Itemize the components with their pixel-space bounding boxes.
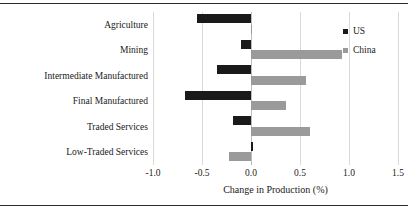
bar-china — [251, 76, 306, 85]
bar-us — [197, 14, 251, 23]
bar-group — [153, 63, 398, 89]
legend-item[interactable]: US — [343, 26, 405, 36]
bar-us — [233, 116, 251, 125]
bar-us — [251, 142, 253, 151]
x-tick-label: 1.5 — [392, 168, 404, 178]
bar-china — [251, 101, 286, 110]
x-axis-title: Change in Production (%) — [153, 184, 398, 195]
square-swatch — [343, 29, 348, 34]
legend-item[interactable]: China — [343, 45, 405, 55]
legend: USChina — [343, 26, 405, 64]
legend-label: China — [353, 45, 376, 55]
bar-us — [185, 91, 251, 100]
category-label: Low-Traded Services — [0, 147, 148, 157]
bar-us — [241, 40, 251, 49]
category-label: Traded Services — [0, 122, 148, 132]
bar-china — [251, 127, 310, 136]
legend-label: US — [353, 26, 365, 36]
square-swatch — [343, 48, 348, 53]
bar-group — [153, 89, 398, 115]
bar-group — [153, 140, 398, 166]
bar-group — [153, 114, 398, 140]
top-rule — [0, 3, 408, 4]
x-axis-tick-labels: -1.0-0.50.00.51.01.5 — [153, 168, 398, 182]
x-tick-label: 1.0 — [343, 168, 355, 178]
category-label: Agriculture — [0, 20, 148, 30]
chart-area: AgricultureMiningIntermediate Manufactur… — [0, 8, 408, 198]
category-label: Final Manufactured — [0, 96, 148, 106]
category-label: Mining — [0, 45, 148, 55]
bar-china — [251, 50, 342, 59]
category-label: Intermediate Manufactured — [0, 71, 148, 81]
figure-container: AgricultureMiningIntermediate Manufactur… — [0, 0, 408, 218]
bar-us — [217, 65, 251, 74]
category-axis-labels: AgricultureMiningIntermediate Manufactur… — [0, 12, 148, 165]
x-tick-label: -0.5 — [194, 168, 209, 178]
bar-china — [229, 152, 251, 161]
bottom-rule — [0, 205, 408, 206]
bar-china — [251, 25, 252, 34]
x-tick-label: 0.0 — [245, 168, 257, 178]
x-tick-label: 0.5 — [294, 168, 306, 178]
x-tick-label: -1.0 — [145, 168, 160, 178]
